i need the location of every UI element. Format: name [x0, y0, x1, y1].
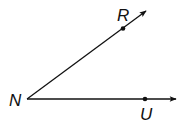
point-u-dot	[143, 97, 148, 102]
label-u: U	[140, 105, 153, 124]
point-r-dot	[121, 26, 126, 31]
angle-diagram: N R U	[0, 0, 188, 127]
label-n: N	[9, 91, 22, 110]
label-r: R	[117, 6, 129, 25]
